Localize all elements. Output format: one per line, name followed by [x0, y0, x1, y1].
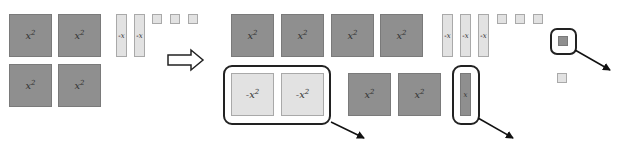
removal-arrow-icon	[575, 50, 610, 70]
arrows-layer	[0, 0, 617, 145]
right-arrow-icon	[168, 50, 203, 70]
removal-arrow-icon	[331, 122, 364, 138]
removal-arrow-icon	[478, 118, 513, 138]
